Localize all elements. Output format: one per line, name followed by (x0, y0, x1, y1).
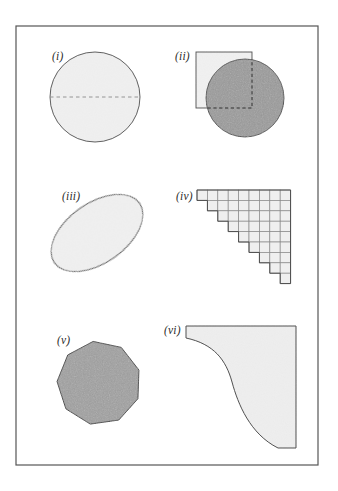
grid-cell (239, 190, 249, 200)
grid-cell (280, 211, 290, 221)
grid-cell (239, 221, 249, 231)
grid-cell (249, 232, 259, 242)
grid-cell (207, 190, 217, 200)
panel-label-i: (i) (52, 50, 63, 63)
grid-cell (280, 242, 290, 252)
grid-cell (218, 200, 228, 210)
grid-cell (259, 221, 269, 231)
grid-cell (280, 200, 290, 210)
grid-cell (249, 190, 259, 200)
grid-cell (228, 200, 238, 210)
figure-canvas: (i) (ii) (iii) (iv) (v) (0, 0, 338, 491)
grid-cell (270, 221, 280, 231)
panel-label-ii: (ii) (175, 50, 190, 63)
grid-cell (280, 252, 290, 262)
grid-cell (270, 242, 280, 252)
grid-cell (270, 263, 280, 273)
grid-cell (259, 200, 269, 210)
grid-cell (280, 263, 290, 273)
panel-label-iii: (iii) (62, 190, 80, 203)
shaded-circle-shape (206, 59, 284, 137)
grid-cell (239, 232, 249, 242)
panel-label-iv: (iv) (176, 190, 193, 203)
grid-cell (270, 190, 280, 200)
grid-cell (280, 273, 290, 283)
panel-label-vi: (vi) (164, 324, 181, 337)
grid-cell (259, 242, 269, 252)
grid-cell (249, 200, 259, 210)
grid-cell (270, 232, 280, 242)
grid-cell (197, 190, 207, 200)
grid-cell (207, 200, 217, 210)
grid-cell (280, 190, 290, 200)
grid-cell (259, 211, 269, 221)
grid-cell (280, 232, 290, 242)
grid-cell (259, 252, 269, 262)
figure-plate: (i) (ii) (iii) (iv) (v) (0, 0, 338, 491)
grid-cell (259, 190, 269, 200)
grid-cell (270, 211, 280, 221)
grid-cell (239, 211, 249, 221)
grid-cell (228, 221, 238, 231)
grid-cell (239, 200, 249, 210)
grid-cell (270, 252, 280, 262)
panel-label-v: (v) (57, 334, 70, 347)
grid-cell (249, 211, 259, 221)
grid-cell (280, 221, 290, 231)
grid-cell (228, 211, 238, 221)
grid-cell (228, 190, 238, 200)
grid-cell (249, 242, 259, 252)
grid-cell (249, 221, 259, 231)
grid-cell (218, 190, 228, 200)
grid-cell (259, 232, 269, 242)
grid-cell (270, 200, 280, 210)
grid-cell (218, 211, 228, 221)
